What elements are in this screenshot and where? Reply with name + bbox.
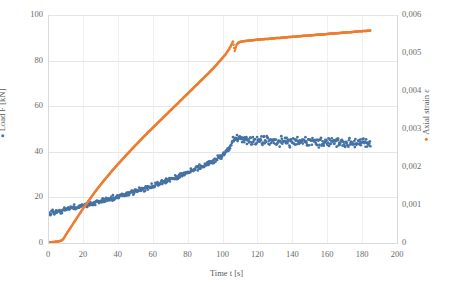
y-axis-left-tick-label: 80: [9, 56, 43, 65]
y-axis-left-tick-label: 0: [9, 238, 43, 247]
x-axis-tick-label: 0: [33, 250, 63, 259]
y-axis-right-tick-label: 0: [402, 238, 442, 247]
x-axis-tick-label: 40: [103, 250, 133, 259]
x-axis-tick-label: 160: [312, 250, 342, 259]
x-axis-tick-label: 180: [347, 250, 377, 259]
y-axis-left-line: [48, 15, 49, 244]
series-load: [48, 134, 372, 217]
y-axis-right-line: [397, 15, 398, 244]
data-series-layer: [48, 15, 397, 243]
y-axis-left-tick-label: 60: [9, 101, 43, 110]
y-axis-right-title: Axial strain ε: [421, 89, 431, 141]
x-axis-tick-label: 20: [68, 250, 98, 259]
scatter-chart: 02040608010000,0010,0020,0030,0040,0050,…: [0, 0, 453, 287]
y-axis-right-tick-label: 0,005: [402, 48, 442, 57]
y-axis-left-tick-label: 40: [9, 147, 43, 156]
x-axis-tick-label: 60: [138, 250, 168, 259]
y-axis-right-tick-label: 0,006: [402, 10, 442, 19]
x-axis-title-text: Time t [s]: [210, 268, 243, 278]
y-axis-right-tick-label: 0,002: [402, 162, 442, 171]
y-axis-left-title-text: Load F [kN]: [0, 89, 7, 132]
plot-area: [48, 15, 397, 243]
x-axis-tick-label: 120: [242, 250, 272, 259]
legend-marker-load: [1, 134, 4, 137]
y-axis-left-tick-label: 20: [9, 192, 43, 201]
y-axis-left-tick-label: 100: [9, 10, 43, 19]
x-axis-tick-label: 140: [277, 250, 307, 259]
series-strain: [48, 29, 372, 243]
y-axis-left-title: Load F [kN]: [0, 89, 7, 138]
x-axis-line: [48, 243, 398, 244]
y-axis-right-title-text: Axial strain ε: [421, 89, 431, 135]
y-axis-right-tick-label: 0,001: [402, 200, 442, 209]
x-axis-tick-label: 80: [173, 250, 203, 259]
x-axis-tick-label: 100: [208, 250, 238, 259]
x-axis-title: Time t [s]: [0, 268, 453, 278]
legend-marker-strain: [424, 138, 427, 141]
x-axis-tick-label: 200: [382, 250, 412, 259]
